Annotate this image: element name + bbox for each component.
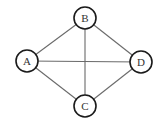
node-label: A <box>23 55 31 67</box>
node-label: D <box>137 56 145 68</box>
graph-diagram: ABCD <box>0 0 167 126</box>
node-b: B <box>74 7 96 29</box>
node-c: C <box>74 95 96 117</box>
edges-group <box>27 18 141 106</box>
edge-a-d <box>27 61 141 62</box>
node-d: D <box>130 51 152 73</box>
node-label: B <box>81 12 88 24</box>
node-a: A <box>16 50 38 72</box>
node-label: C <box>81 100 88 112</box>
